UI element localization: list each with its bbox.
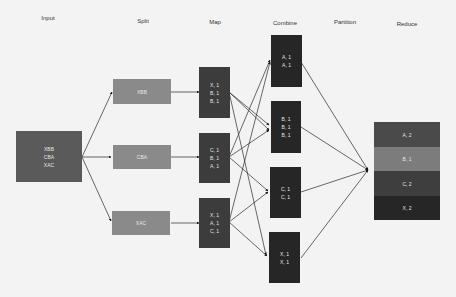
header-split: Split <box>113 18 173 24</box>
combine-line: C, 1 <box>281 185 290 193</box>
map-line: X, 1 <box>210 81 219 89</box>
combine-line: A, 1 <box>282 53 291 61</box>
combine-box: A, 1 A, 1 <box>271 35 302 87</box>
map-line: B, 1 <box>210 154 219 162</box>
map-line: B, 1 <box>210 89 219 97</box>
split-label: XBB <box>137 88 147 96</box>
reduce-label: A, 2 <box>403 132 412 138</box>
header-combine: Combine <box>255 20 315 26</box>
input-line: CBA <box>44 153 54 161</box>
reduce-row: X, 2 <box>374 196 440 220</box>
reduce-label: B, 1 <box>403 156 412 162</box>
header-reduce: Reduce <box>377 21 437 27</box>
reduce-row: A, 2 <box>374 122 440 147</box>
map-box: X, 1 B, 1 B, 1 <box>199 67 230 118</box>
map-line: C, 1 <box>210 146 219 154</box>
combine-line: B, 1 <box>282 123 291 131</box>
combine-box: X, 1 X, 1 <box>269 232 300 283</box>
combine-box: C, 1 C, 1 <box>270 167 301 218</box>
combine-line: B, 1 <box>282 115 291 123</box>
combine-line: A, 1 <box>282 61 291 69</box>
combine-box: B, 1 B, 1 B, 1 <box>271 101 301 153</box>
reduce-label: X, 2 <box>403 205 412 211</box>
split-label: XAC <box>136 219 146 227</box>
map-line: B, 1 <box>210 97 219 105</box>
split-label: CBA <box>137 153 147 161</box>
map-box: X, 1 A, 1 C, 1 <box>199 198 230 248</box>
split-box: CBA <box>113 145 171 169</box>
input-box: XBB CBA XAC <box>16 131 82 182</box>
map-line: A, 1 <box>210 162 219 170</box>
map-line: X, 1 <box>210 211 219 219</box>
combine-line: X, 1 <box>280 250 289 258</box>
input-line: XBB <box>44 145 54 153</box>
header-partition: Partition <box>315 19 375 25</box>
combine-line: B, 1 <box>282 131 291 139</box>
header-map: Map <box>185 19 245 25</box>
map-box: C, 1 B, 1 A, 1 <box>199 133 230 183</box>
split-box: XBB <box>113 79 171 104</box>
map-line: A, 1 <box>210 219 219 227</box>
input-line: XAC <box>44 161 54 169</box>
split-box: XAC <box>112 211 170 235</box>
header-input: Input <box>18 15 78 21</box>
reduce-row: C, 2 <box>374 171 440 196</box>
map-line: C, 1 <box>210 227 219 235</box>
combine-line: X, 1 <box>280 258 289 266</box>
reduce-row: B, 1 <box>374 147 440 171</box>
combine-line: C, 1 <box>281 193 290 201</box>
reduce-label: C, 2 <box>402 181 411 187</box>
